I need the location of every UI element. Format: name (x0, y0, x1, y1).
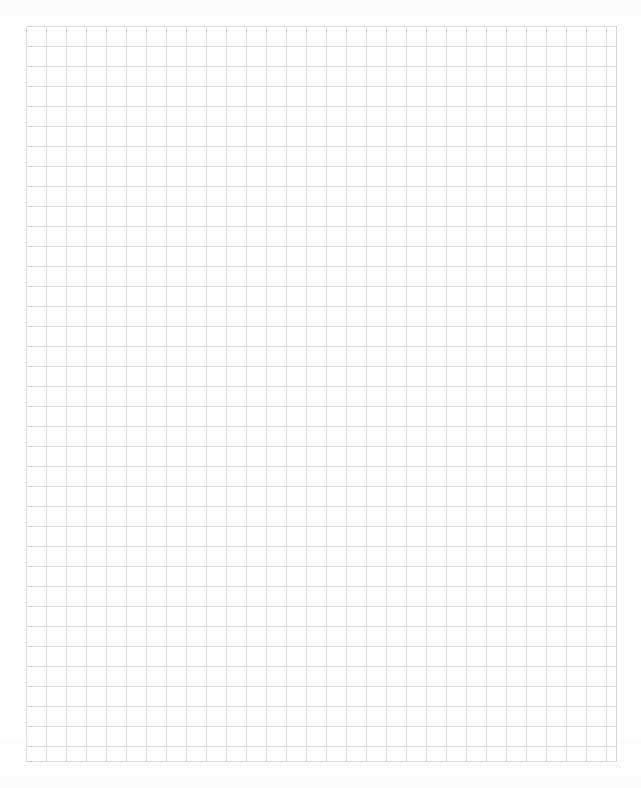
graph-paper-page: Graph Paper Sheet (0, 0, 641, 788)
page-title: Graph Paper Sheet (0, 0, 1, 1)
graph-paper-grid (26, 26, 617, 762)
